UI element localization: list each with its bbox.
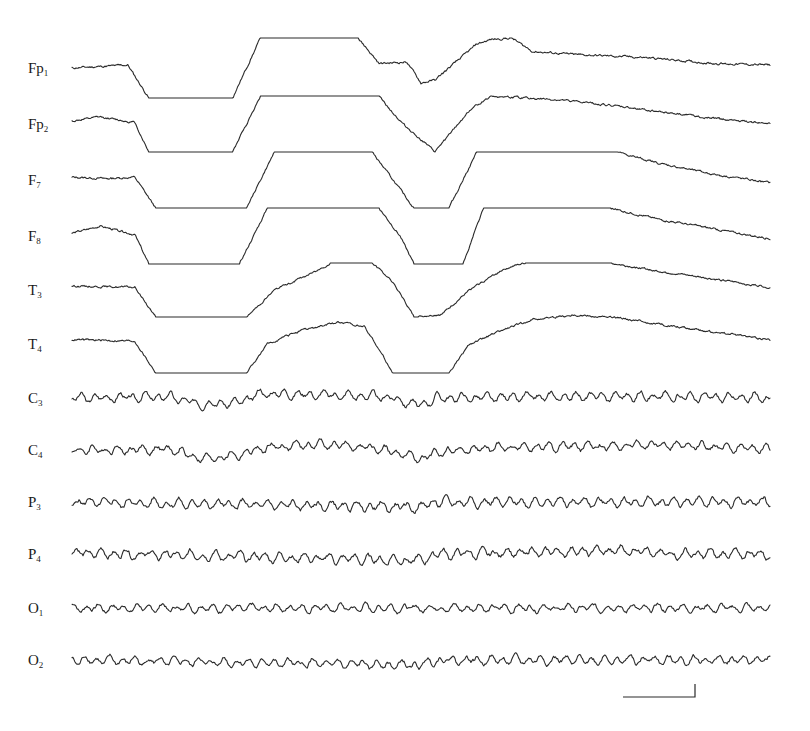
eeg-trace-p3 <box>72 495 770 514</box>
channel-traces <box>72 38 770 669</box>
channel-label: F8 <box>28 228 41 246</box>
scale-bar <box>623 684 695 697</box>
eeg-trace-fp2 <box>72 96 770 152</box>
eeg-trace-t4 <box>72 315 770 373</box>
channel-label: Fp1 <box>28 60 48 78</box>
channel-label: Fp2 <box>28 116 48 134</box>
channel-label: P4 <box>28 546 41 564</box>
eeg-trace-f8 <box>72 208 770 264</box>
channel-label: O2 <box>28 652 43 670</box>
channel-label: T4 <box>28 336 42 354</box>
eeg-trace-c4 <box>72 439 770 463</box>
channel-label: O1 <box>28 600 43 618</box>
channel-label: C4 <box>28 442 43 460</box>
channel-labels: Fp1Fp2F7F8T3T4C3C4P3P4O1O2 <box>28 60 48 670</box>
eeg-trace-c3 <box>72 389 770 411</box>
channel-label: F7 <box>28 172 41 190</box>
eeg-chart: Fp1Fp2F7F8T3T4C3C4P3P4O1O2 <box>0 0 810 731</box>
eeg-trace-o1 <box>72 602 770 614</box>
channel-label: C3 <box>28 390 43 408</box>
eeg-trace-t3 <box>72 263 770 317</box>
calibration-bar <box>623 684 695 697</box>
channel-label: T3 <box>28 282 42 300</box>
channel-label: P3 <box>28 494 41 512</box>
eeg-trace-o2 <box>72 653 770 670</box>
eeg-trace-f7 <box>72 152 770 208</box>
eeg-trace-fp1 <box>72 38 770 98</box>
eeg-trace-p4 <box>72 545 770 566</box>
